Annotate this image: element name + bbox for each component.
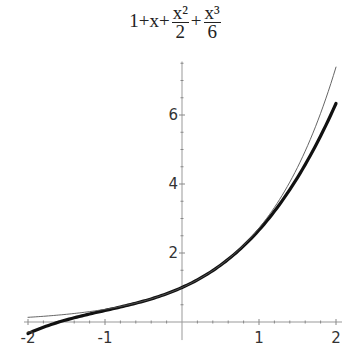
axes [24, 62, 342, 341]
x-tick-label: -2 [21, 329, 36, 347]
x-tick-label: -1 [98, 329, 113, 347]
tick-labels: -2-112246 [21, 106, 341, 347]
y-tick-label: 2 [168, 244, 178, 262]
x-tick-label: 1 [254, 329, 264, 347]
x-tick-label: 2 [331, 329, 341, 347]
y-tick-label: 4 [168, 175, 178, 193]
plot-area: -2-112246 [0, 0, 352, 364]
y-tick-label: 6 [168, 106, 178, 124]
